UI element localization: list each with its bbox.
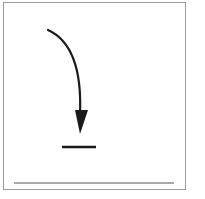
square-frame (4, 3, 186, 190)
curved-down-arrow-icon (48, 30, 88, 134)
diagram-canvas (0, 0, 205, 199)
